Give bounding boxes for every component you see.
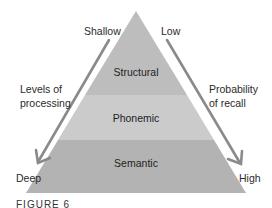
phonemic-layer-label: Phonemic <box>86 112 186 124</box>
high-label: High <box>239 172 261 184</box>
probability-of-recall-title-line2: of recall <box>209 97 246 109</box>
levels-of-processing-title-line1: Levels of <box>20 83 62 95</box>
levels-of-processing-diagram: Shallow Low Levels of processing Probabi… <box>0 0 272 208</box>
structural-layer-label: Structural <box>86 66 186 78</box>
semantic-layer-label: Semantic <box>86 157 186 169</box>
levels-of-processing-title-line2: processing <box>20 97 71 109</box>
figure-caption: FIGURE 6 <box>16 199 70 208</box>
low-label: Low <box>161 25 180 37</box>
deep-label: Deep <box>16 172 41 184</box>
probability-of-recall-title-line1: Probability <box>209 83 258 95</box>
shallow-label: Shallow <box>84 25 121 37</box>
